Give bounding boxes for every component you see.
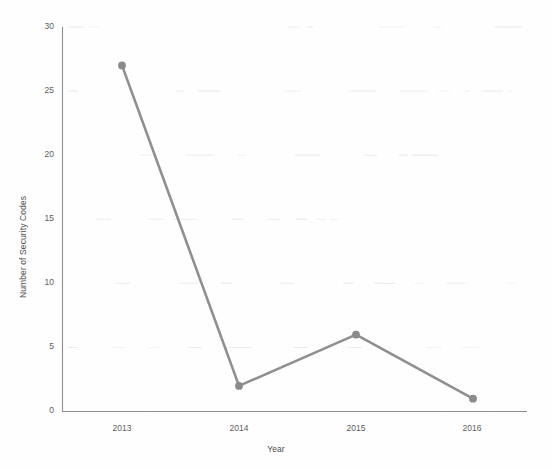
plot-area [0, 0, 552, 468]
data-point-2014 [235, 382, 243, 390]
gridlines [69, 27, 523, 347]
y-tick-label-15: 15 [28, 213, 54, 223]
y-tick-label-10: 10 [28, 277, 54, 287]
y-axis-title-container: Number of Security Codes [6, 0, 24, 468]
x-tick-label-2016: 2016 [442, 423, 502, 433]
x-tick-label-2014: 2014 [209, 423, 269, 433]
data-point-2013 [118, 62, 126, 70]
y-tick-label-30: 30 [28, 21, 54, 31]
y-axis-title: Number of Security Codes [18, 196, 28, 298]
series-line [122, 65, 473, 398]
y-tick-label-20: 20 [28, 149, 54, 159]
axis-lines [62, 27, 527, 412]
data-point-2015 [352, 331, 360, 339]
x-axis-title: Year [0, 444, 552, 454]
y-tick-label-5: 5 [28, 341, 54, 351]
x-tick-label-2013: 2013 [92, 423, 152, 433]
y-tick-label-25: 25 [28, 85, 54, 95]
data-point-2016 [469, 395, 477, 403]
x-tick-label-2015: 2015 [326, 423, 386, 433]
y-tick-label-0: 0 [28, 405, 54, 415]
line-chart: Number of Security Codes 30 25 20 15 10 … [0, 0, 552, 468]
data-series-layer [118, 62, 477, 403]
